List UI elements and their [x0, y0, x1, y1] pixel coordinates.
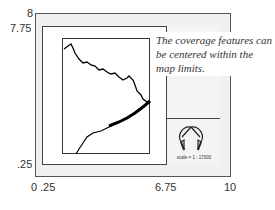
x-label-10: 10	[224, 182, 236, 193]
x-label-6-75: 6.75	[155, 182, 176, 193]
y-label-8: 8	[27, 8, 33, 19]
x-label-0: 0	[31, 182, 37, 193]
x-label-0-25: .25	[40, 182, 55, 193]
coverage-features	[63, 39, 151, 155]
scale-label: scale = 1 : 17000	[170, 155, 218, 160]
y-label-0-25: .25	[17, 159, 32, 170]
callout-text: The coverage features can be centered wi…	[154, 32, 275, 76]
north-arrow-icon	[178, 124, 204, 152]
legend-divider	[166, 118, 220, 119]
map-coverage-box	[62, 38, 150, 154]
y-label-7-75: 7.75	[10, 23, 31, 34]
